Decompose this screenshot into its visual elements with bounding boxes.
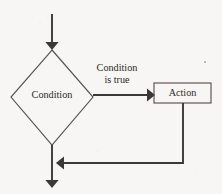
branch-true-edge-label: Condition is true xyxy=(82,62,152,87)
branch-label-line-1: Condition xyxy=(82,62,152,74)
condition-node-label: Condition xyxy=(11,89,93,100)
action-node-label: Action xyxy=(154,87,211,98)
branch-label-line-2: is true xyxy=(82,74,152,86)
scan-speck-artifact xyxy=(204,61,206,63)
flowchart-canvas: Condition Action Condition is true xyxy=(0,0,222,194)
